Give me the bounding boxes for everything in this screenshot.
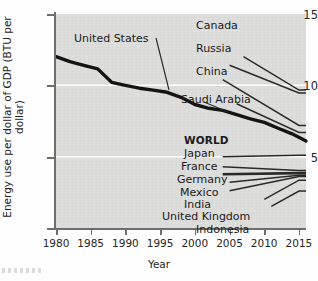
x-tick-label-2000: 2000 xyxy=(178,237,212,249)
energy-intensity-chart: 15 10 5 1980 1985 1990 1995 2000 2005 20… xyxy=(0,0,318,281)
y-tick-label-15: 15 xyxy=(272,8,318,22)
series-label-india: India xyxy=(184,199,211,210)
series-label-saudi-arabia: Saudi Arabia xyxy=(181,94,251,105)
x-axis-title: Year xyxy=(0,258,318,270)
series-label-united-kingdom: United Kingdom xyxy=(162,211,250,222)
series-line-mexico xyxy=(230,175,306,182)
series-line-germany xyxy=(223,173,306,174)
x-tick-label-2005: 2005 xyxy=(213,237,247,249)
series-label-united-states: United States xyxy=(74,33,149,44)
y-axis-title: Energy use per dollar of GDP (BTU per do… xyxy=(1,7,25,227)
series-label-world: WORLD xyxy=(184,135,229,146)
y-tick-5 xyxy=(47,157,55,159)
series-label-indonesia: Indonesia xyxy=(196,224,249,235)
series-label-japan: Japan xyxy=(184,148,215,159)
x-tick-label-1980: 1980 xyxy=(39,237,73,249)
x-tick-label-1990: 1990 xyxy=(108,237,142,249)
x-tick-label-1995: 1995 xyxy=(143,237,177,249)
series-label-russia: Russia xyxy=(196,43,231,54)
y-tick-label-10: 10 xyxy=(272,79,318,93)
x-tick-label-2010: 2010 xyxy=(247,237,281,249)
y-tick-15 xyxy=(47,14,55,16)
y-axis-line xyxy=(54,12,56,230)
x-tick-label-1985: 1985 xyxy=(74,237,108,249)
series-label-mexico: Mexico xyxy=(180,187,218,198)
leader-line-united-states xyxy=(156,38,169,90)
scan-artifact xyxy=(2,268,42,273)
series-label-canada: Canada xyxy=(196,20,238,31)
x-tick-1980 xyxy=(56,228,58,235)
series-label-france: France xyxy=(181,161,218,172)
x-tick-1985 xyxy=(91,228,93,235)
y-tick-10 xyxy=(47,85,55,87)
x-tick-label-2015: 2015 xyxy=(282,237,316,249)
y-tick-0 xyxy=(47,228,55,230)
series-line-france xyxy=(223,167,306,171)
series-label-germany: Germany xyxy=(177,174,228,185)
series-label-china: China xyxy=(196,66,227,77)
y-tick-label-5: 5 xyxy=(272,151,318,165)
x-tick-2010 xyxy=(264,228,266,235)
x-tick-2015 xyxy=(299,228,301,235)
x-tick-1995 xyxy=(160,228,162,235)
x-tick-1990 xyxy=(125,228,127,235)
